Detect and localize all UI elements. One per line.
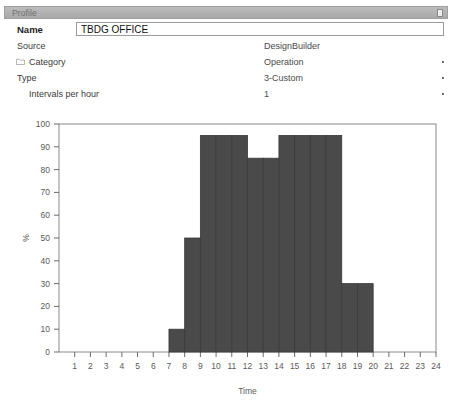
profile-chart: 0102030405060708090100%12345678910111213… bbox=[4, 102, 448, 396]
field-row-intervals-per-hour[interactable]: Intervals per hour 1 bbox=[4, 86, 448, 102]
window-title: Profile bbox=[12, 8, 37, 19]
y-axis-tick-label: 10 bbox=[41, 324, 51, 334]
x-axis-tick-label: 4 bbox=[119, 361, 124, 371]
bar bbox=[357, 284, 373, 352]
chart-canvas: 0102030405060708090100%12345678910111213… bbox=[4, 102, 448, 396]
y-axis-tick-label: 60 bbox=[41, 210, 51, 220]
x-axis-tick-label: 19 bbox=[353, 361, 363, 371]
category-value: Operation bbox=[264, 54, 304, 70]
category-label: Category bbox=[29, 54, 66, 70]
x-axis-tick-label: 23 bbox=[416, 361, 426, 371]
intervals-per-hour-value: 1 bbox=[264, 86, 269, 102]
x-axis-tick-label: 13 bbox=[258, 361, 268, 371]
close-icon[interactable] bbox=[437, 9, 443, 17]
y-axis-tick-label: 90 bbox=[41, 142, 51, 152]
type-dropdown-arrow[interactable] bbox=[442, 77, 444, 79]
y-axis-tick-label: 40 bbox=[41, 256, 51, 266]
intervals-per-hour-label: Intervals per hour bbox=[29, 86, 99, 102]
source-value: DesignBuilder bbox=[264, 38, 320, 54]
x-axis-title: Time bbox=[238, 386, 257, 396]
x-axis-tick-label: 6 bbox=[151, 361, 156, 371]
bar bbox=[216, 135, 232, 352]
type-label: Type bbox=[17, 70, 37, 86]
folder-icon bbox=[16, 58, 25, 65]
bar bbox=[310, 135, 326, 352]
x-axis-tick-label: 24 bbox=[431, 361, 441, 371]
profile-window: Profile Name Source DesignBuilder Catego… bbox=[4, 6, 448, 396]
x-axis-tick-label: 20 bbox=[368, 361, 378, 371]
y-axis-tick-label: 20 bbox=[41, 301, 51, 311]
y-axis-tick-label: 70 bbox=[41, 187, 51, 197]
x-axis-tick-label: 15 bbox=[290, 361, 300, 371]
bar bbox=[232, 135, 248, 352]
field-row-name: Name bbox=[4, 22, 448, 38]
y-axis-tick-label: 80 bbox=[41, 165, 51, 175]
x-axis-tick-label: 8 bbox=[182, 361, 187, 371]
x-axis-tick-label: 3 bbox=[104, 361, 109, 371]
bar bbox=[295, 135, 311, 352]
name-input[interactable] bbox=[76, 22, 444, 36]
window-titlebar: Profile bbox=[4, 6, 448, 19]
y-axis-tick-label: 0 bbox=[45, 347, 50, 357]
x-axis-tick-label: 18 bbox=[337, 361, 347, 371]
x-axis-tick-label: 17 bbox=[321, 361, 331, 371]
x-axis-tick-label: 2 bbox=[88, 361, 93, 371]
y-axis-tick-label: 100 bbox=[36, 119, 50, 129]
name-label: Name bbox=[17, 22, 43, 38]
bar bbox=[263, 158, 279, 352]
bar bbox=[342, 284, 358, 352]
x-axis-tick-label: 21 bbox=[384, 361, 394, 371]
x-axis-tick-label: 9 bbox=[198, 361, 203, 371]
x-axis-tick-label: 10 bbox=[211, 361, 221, 371]
x-axis-tick-label: 14 bbox=[274, 361, 284, 371]
x-axis-tick-label: 16 bbox=[306, 361, 316, 371]
x-axis-tick-label: 1 bbox=[72, 361, 77, 371]
x-axis-tick-label: 11 bbox=[227, 361, 236, 371]
field-row-source: Source DesignBuilder bbox=[4, 38, 448, 54]
x-axis-tick-label: 7 bbox=[167, 361, 172, 371]
type-value: 3-Custom bbox=[264, 70, 303, 86]
bar bbox=[200, 135, 216, 352]
y-axis-tick-label: 30 bbox=[41, 279, 51, 289]
bar bbox=[169, 329, 185, 352]
x-axis-tick-label: 22 bbox=[400, 361, 410, 371]
x-axis-tick-label: 5 bbox=[135, 361, 140, 371]
field-row-type[interactable]: Type 3-Custom bbox=[4, 70, 448, 86]
bar bbox=[326, 135, 342, 352]
category-dropdown-arrow[interactable] bbox=[442, 61, 444, 63]
bar bbox=[279, 135, 295, 352]
source-label: Source bbox=[17, 38, 46, 54]
profile-form: Name Source DesignBuilder Category Opera… bbox=[4, 22, 448, 102]
bar bbox=[248, 158, 264, 352]
y-axis-title: % bbox=[21, 234, 31, 242]
intervals-per-hour-dropdown-arrow[interactable] bbox=[442, 93, 444, 95]
bar bbox=[185, 238, 201, 352]
y-axis-tick-label: 50 bbox=[41, 233, 51, 243]
field-row-category[interactable]: Category Operation bbox=[4, 54, 448, 70]
x-axis-tick-label: 12 bbox=[243, 361, 253, 371]
